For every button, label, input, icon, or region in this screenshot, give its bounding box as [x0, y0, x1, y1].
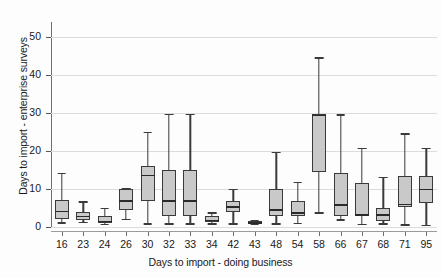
y-tick-mark-40 — [46, 75, 51, 76]
lower-whisker-cap — [143, 223, 152, 224]
box-plot-item-42[interactable] — [226, 22, 240, 227]
x-tick-mark-58 — [319, 232, 320, 236]
median-line — [76, 216, 90, 218]
y-tick-label-10: 10 — [17, 182, 41, 194]
median-line — [248, 222, 262, 224]
box-plot-item-32[interactable] — [162, 22, 176, 227]
median-line — [119, 200, 133, 202]
upper-whisker-line — [168, 114, 169, 170]
upper-whisker-cap — [358, 148, 367, 149]
gridline-y-0 — [51, 227, 437, 228]
x-tick-mark-42 — [233, 232, 234, 236]
lower-whisker-line — [168, 216, 169, 223]
upper-whisker-cap — [143, 132, 152, 133]
x-tick-mark-71 — [405, 232, 406, 236]
box-iqr — [162, 170, 176, 216]
median-line — [141, 175, 155, 177]
box-iqr — [312, 114, 326, 172]
lower-whisker-cap — [315, 212, 324, 213]
upper-whisker-line — [147, 132, 148, 166]
upper-whisker-line — [61, 173, 62, 200]
upper-whisker-line — [190, 114, 191, 170]
upper-whisker-line — [340, 114, 341, 173]
box-iqr — [55, 200, 69, 220]
lower-whisker-line — [125, 210, 126, 219]
lower-whisker-cap — [122, 219, 131, 220]
lower-whisker-line — [361, 216, 362, 224]
box-plot-item-33[interactable] — [183, 22, 197, 227]
upper-whisker-cap — [186, 114, 195, 115]
x-tick-mark-68 — [383, 232, 384, 236]
y-tick-mark-30 — [46, 113, 51, 114]
x-tick-mark-16 — [62, 232, 63, 236]
lower-whisker-cap — [207, 223, 216, 224]
box-plot-item-95[interactable] — [419, 22, 433, 227]
box-plot-item-16[interactable] — [55, 22, 69, 227]
upper-whisker-cap — [272, 152, 281, 153]
lower-whisker-cap — [293, 223, 302, 224]
box-iqr — [355, 183, 369, 216]
box-plot-item-24[interactable] — [98, 22, 112, 227]
lower-whisker-cap — [57, 222, 66, 223]
median-line — [205, 220, 219, 222]
x-tick-mark-32 — [169, 232, 170, 236]
median-line — [419, 189, 433, 191]
box-iqr — [334, 173, 348, 216]
lower-whisker-cap — [229, 223, 238, 224]
lower-whisker-line — [190, 216, 191, 223]
upper-whisker-cap — [422, 148, 431, 149]
lower-whisker-cap — [100, 224, 109, 225]
upper-whisker-cap — [229, 189, 238, 190]
y-tick-label-0: 0 — [17, 220, 41, 232]
upper-whisker-cap — [315, 57, 324, 58]
y-tick-mark-20 — [46, 151, 51, 152]
box-plot-item-26[interactable] — [119, 22, 133, 227]
box-plot-item-58[interactable] — [312, 22, 326, 227]
box-plot-item-34[interactable] — [205, 22, 219, 227]
median-line — [269, 209, 283, 211]
box-plot-item-67[interactable] — [355, 22, 369, 227]
lower-whisker-line — [426, 203, 427, 225]
upper-whisker-line — [404, 133, 405, 176]
box-plot-item-54[interactable] — [291, 22, 305, 227]
x-tick-mark-67 — [362, 232, 363, 236]
x-tick-mark-26 — [126, 232, 127, 236]
lower-whisker-cap — [358, 224, 367, 225]
median-line — [355, 214, 369, 216]
box-iqr — [398, 176, 412, 208]
lower-whisker-cap — [250, 224, 259, 225]
median-line — [376, 214, 390, 216]
box-plot-chart: Days to import - enterprise surveys Days… — [0, 0, 441, 278]
upper-whisker-line — [297, 182, 298, 201]
x-tick-mark-23 — [83, 232, 84, 236]
lower-whisker-line — [233, 212, 234, 223]
upper-whisker-cap — [293, 182, 302, 183]
upper-whisker-cap — [79, 201, 88, 202]
y-tick-mark-10 — [46, 189, 51, 190]
x-tick-mark-54 — [298, 232, 299, 236]
lower-whisker-line — [404, 207, 405, 224]
box-plot-item-43[interactable] — [248, 22, 262, 227]
box-plot-item-71[interactable] — [398, 22, 412, 227]
x-tick-mark-43 — [255, 232, 256, 236]
lower-whisker-cap — [272, 223, 281, 224]
box-plot-item-23[interactable] — [76, 22, 90, 227]
box-plot-item-66[interactable] — [334, 22, 348, 227]
y-tick-label-50: 50 — [17, 30, 41, 42]
median-line — [162, 200, 176, 202]
lower-whisker-cap — [379, 223, 388, 224]
box-plot-item-68[interactable] — [376, 22, 390, 227]
median-line — [183, 200, 197, 202]
box-iqr — [141, 166, 155, 201]
box-plot-item-30[interactable] — [141, 22, 155, 227]
x-tick-mark-24 — [105, 232, 106, 236]
y-tick-mark-50 — [46, 37, 51, 38]
x-tick-mark-34 — [212, 232, 213, 236]
upper-whisker-cap — [57, 173, 66, 174]
median-line — [291, 212, 305, 214]
lower-whisker-cap — [186, 223, 195, 224]
box-plot-item-48[interactable] — [269, 22, 283, 227]
upper-whisker-line — [233, 189, 234, 201]
upper-whisker-line — [426, 148, 427, 176]
y-tick-label-40: 40 — [17, 68, 41, 80]
